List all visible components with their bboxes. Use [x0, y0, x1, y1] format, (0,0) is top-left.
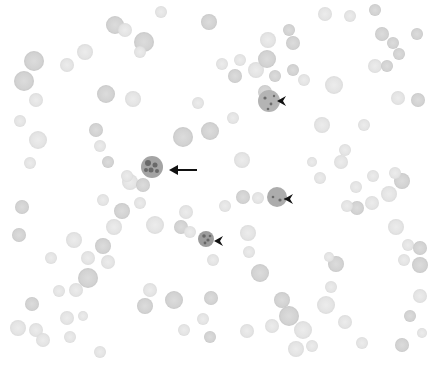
- erythrocyte: [318, 7, 332, 21]
- erythrocytes-layer: [10, 4, 428, 358]
- erythrocyte: [369, 4, 381, 16]
- erythrocyte: [60, 58, 74, 72]
- erythrocyte: [324, 252, 334, 262]
- erythrocyte: [404, 310, 416, 322]
- erythrocyte: [240, 324, 254, 338]
- erythrocyte: [136, 178, 150, 192]
- erythrocyte: [260, 32, 276, 48]
- arrow-left-icon: [169, 165, 197, 175]
- erythrocyte: [350, 181, 362, 193]
- erythrocyte: [381, 60, 393, 72]
- right-edge-blank: [428, 0, 444, 365]
- erythrocyte: [314, 117, 330, 133]
- erythrocyte: [339, 144, 351, 156]
- erythrocyte: [417, 328, 427, 338]
- stained-cell: [267, 187, 287, 207]
- erythrocyte: [134, 197, 146, 209]
- erythrocyte: [12, 228, 26, 242]
- erythrocyte: [338, 315, 352, 329]
- erythrocyte: [102, 156, 114, 168]
- erythrocyte: [367, 170, 379, 182]
- erythrocyte: [325, 76, 343, 94]
- erythrocyte: [234, 54, 246, 66]
- erythrocyte: [45, 252, 57, 264]
- erythrocyte: [204, 291, 218, 305]
- erythrocyte: [14, 115, 26, 127]
- erythrocyte: [240, 225, 256, 241]
- erythrocyte: [216, 58, 228, 70]
- erythrocyte: [95, 238, 111, 254]
- erythrocyte: [288, 341, 304, 357]
- erythrocyte: [287, 64, 299, 76]
- erythrocyte: [197, 313, 209, 325]
- erythrocyte: [143, 283, 157, 297]
- erythrocyte: [78, 268, 98, 288]
- stained-cell: [198, 231, 214, 247]
- erythrocyte: [29, 93, 43, 107]
- erythrocyte: [97, 194, 109, 206]
- erythrocyte: [204, 331, 216, 343]
- erythrocyte: [201, 14, 217, 30]
- erythrocyte: [317, 296, 335, 314]
- stained-cell: [258, 90, 280, 112]
- erythrocyte: [66, 232, 82, 248]
- erythrocyte: [243, 246, 255, 258]
- erythrocyte: [155, 6, 167, 18]
- erythrocyte: [192, 97, 204, 109]
- erythrocyte: [358, 119, 370, 131]
- erythrocyte: [114, 203, 130, 219]
- erythrocyte: [356, 337, 368, 349]
- stained-cell: [141, 156, 163, 178]
- erythrocyte: [395, 338, 409, 352]
- erythrocyte: [365, 196, 379, 210]
- erythrocyte: [236, 190, 250, 204]
- erythrocyte: [146, 216, 164, 234]
- erythrocyte: [69, 283, 83, 297]
- erythrocyte: [94, 346, 106, 358]
- erythrocyte: [125, 91, 141, 107]
- erythrocyte: [393, 48, 405, 60]
- erythrocyte: [118, 23, 132, 37]
- erythrocyte: [64, 331, 76, 343]
- erythrocyte: [201, 122, 219, 140]
- erythrocyte: [228, 69, 242, 83]
- erythrocyte: [325, 281, 337, 293]
- erythrocyte: [251, 264, 269, 282]
- erythrocyte: [234, 152, 250, 168]
- erythrocyte: [134, 46, 146, 58]
- erythrocyte: [24, 157, 36, 169]
- erythrocyte: [89, 123, 103, 137]
- erythrocyte: [279, 306, 299, 326]
- erythrocyte: [258, 50, 276, 68]
- erythrocyte: [274, 292, 290, 308]
- erythrocyte: [219, 200, 231, 212]
- erythrocyte: [101, 255, 115, 269]
- erythrocyte: [94, 140, 106, 152]
- erythrocyte: [402, 239, 414, 251]
- erythrocyte: [341, 200, 353, 212]
- erythrocyte: [178, 324, 190, 336]
- erythrocyte: [314, 172, 326, 184]
- erythrocyte: [388, 219, 404, 235]
- erythrocyte: [283, 24, 295, 36]
- erythrocyte: [60, 311, 74, 325]
- erythrocyte: [78, 311, 88, 321]
- erythrocyte: [184, 226, 196, 238]
- erythrocyte: [137, 298, 153, 314]
- erythrocyte: [24, 51, 44, 71]
- erythrocyte: [306, 340, 318, 352]
- erythrocyte: [387, 37, 399, 49]
- erythrocyte: [15, 200, 29, 214]
- erythrocyte: [227, 112, 239, 124]
- erythrocyte: [14, 71, 34, 91]
- erythrocyte: [121, 170, 133, 182]
- erythrocyte: [173, 127, 193, 147]
- erythrocyte: [77, 44, 93, 60]
- erythrocyte: [307, 157, 317, 167]
- erythrocyte: [411, 28, 423, 40]
- erythrocyte: [298, 74, 310, 86]
- erythrocyte: [344, 10, 356, 22]
- erythrocyte: [294, 321, 312, 339]
- erythrocyte: [25, 297, 39, 311]
- micrograph: [0, 0, 444, 365]
